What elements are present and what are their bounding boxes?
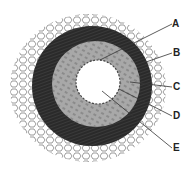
label-e: E [173, 143, 180, 153]
label-b: B [173, 48, 180, 58]
label-a: A [172, 19, 179, 29]
label-c: C [173, 82, 180, 92]
vessel-cross-section-diagram [0, 0, 192, 172]
lumen [79, 63, 117, 101]
label-d: D [173, 111, 180, 121]
